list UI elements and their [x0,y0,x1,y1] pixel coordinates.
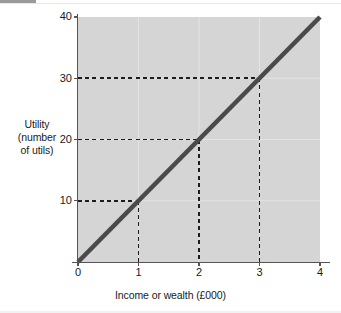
y-tick-label-10: 10 [50,194,72,206]
y-tick-label-30: 30 [50,72,72,84]
y-axis-title-line-3: of utils) [6,144,68,157]
x-tick-label-0: 0 [66,266,90,278]
x-tick-label-2: 2 [187,266,211,278]
x-tick-label-3: 3 [248,266,272,278]
y-tick-label-20: 20 [50,133,72,145]
y-tick-label-40: 40 [50,10,72,22]
x-axis-title: Income or wealth (£000) [0,289,341,301]
utility-chart-figure: Utility (number of utils) 40 30 20 10 0 … [0,0,341,313]
x-tick-label-4: 4 [308,266,332,278]
x-tick-label-1: 1 [127,266,151,278]
y-axis-title-line-1: Utility [6,118,68,131]
